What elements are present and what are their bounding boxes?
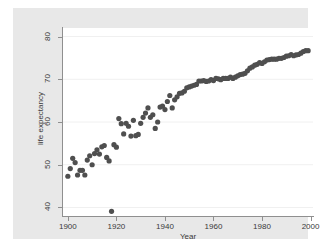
data-point: [87, 153, 92, 158]
gridlines-group: [63, 37, 313, 208]
data-point: [75, 172, 80, 177]
data-points-group: [65, 48, 311, 214]
data-point: [73, 160, 78, 165]
chart-screenshot: 4050607080190019201940196019802000 life …: [0, 0, 321, 251]
y-tick-mark: [58, 207, 62, 208]
data-point: [126, 124, 131, 129]
y-tick-mark: [58, 122, 62, 123]
y-tick-mark: [58, 165, 62, 166]
x-tick-mark: [165, 217, 166, 221]
data-point: [121, 131, 126, 136]
x-tick-mark: [116, 217, 117, 221]
y-axis-line: [62, 27, 63, 217]
y-tick-mark: [58, 37, 62, 38]
graph-region: 4050607080190019201940196019802000 life …: [13, 8, 308, 239]
x-tick-label: 1960: [198, 222, 228, 231]
x-axis-title: Year: [62, 232, 314, 241]
data-point: [138, 121, 143, 126]
x-tick-mark: [262, 217, 263, 221]
y-tick-label: 40: [43, 197, 52, 217]
data-point: [80, 168, 85, 173]
data-point: [306, 48, 311, 53]
data-point: [107, 158, 112, 163]
x-tick-mark: [213, 217, 214, 221]
data-point: [97, 151, 102, 156]
data-point: [145, 105, 150, 110]
data-point: [131, 118, 136, 123]
data-point: [150, 112, 155, 117]
data-point: [162, 107, 167, 112]
data-point: [155, 119, 160, 124]
x-tick-label: 1940: [150, 222, 180, 231]
data-point: [116, 116, 121, 121]
x-tick-label: 1900: [53, 222, 83, 231]
data-point: [65, 174, 70, 179]
data-point: [165, 99, 170, 104]
y-axis-title: life expectancy: [36, 79, 45, 159]
x-tick-label: 1920: [101, 222, 131, 231]
data-point: [136, 132, 141, 137]
plot-area: [63, 28, 313, 216]
data-point: [128, 134, 133, 139]
x-tick-mark: [311, 217, 312, 221]
y-tick-mark: [58, 79, 62, 80]
x-tick-label: 1980: [247, 222, 277, 231]
data-point: [90, 162, 95, 167]
data-point: [153, 126, 158, 131]
scatter-plot-canvas: [63, 28, 313, 216]
data-point: [68, 166, 73, 171]
data-point: [170, 105, 175, 110]
data-point: [82, 172, 87, 177]
x-tick-mark: [68, 217, 69, 221]
data-point: [114, 145, 119, 150]
x-tick-label: 2000: [296, 222, 321, 231]
x-axis-line: [62, 216, 314, 217]
data-point: [143, 110, 148, 115]
y-tick-label: 80: [43, 26, 52, 46]
data-point: [119, 121, 124, 126]
data-point: [167, 93, 172, 98]
data-point: [102, 143, 107, 148]
data-point: [109, 209, 114, 214]
